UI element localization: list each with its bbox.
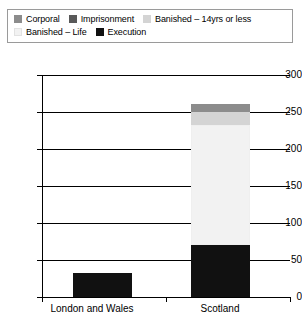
bar-scotland[interactable] [191, 104, 250, 297]
category-label-london-and-wales: London and Wales [32, 303, 152, 314]
legend-item-banished-14yrs: Banished – 14yrs or less [143, 14, 251, 24]
legend-label-banished-life: Banished – Life [26, 27, 87, 37]
gridline [42, 75, 290, 76]
legend-label-banished-14yrs: Banished – 14yrs or less [155, 14, 251, 24]
legend-label-imprisonment: Imprisonment [81, 14, 134, 24]
legend-item-execution: Execution [96, 27, 147, 37]
bar-segment-corporal [191, 104, 250, 112]
x-axis-tick-mark [42, 297, 43, 302]
legend-label-corporal: Corporal [26, 14, 60, 24]
plot-area [42, 75, 290, 297]
legend-item-corporal: Corporal [14, 14, 60, 24]
legend-swatch-corporal-icon [14, 15, 22, 23]
legend-swatch-banished-14yrs-icon [143, 15, 151, 23]
chart-legend: Corporal Imprisonment Banished – 14yrs o… [7, 9, 293, 43]
x-axis-tick-mark [166, 297, 167, 302]
gridline [42, 112, 290, 113]
bar-segment-banished-life [191, 125, 250, 245]
bar-segment-banished-14yrs-or-less [191, 112, 250, 125]
gridline [42, 260, 290, 261]
gridline [42, 223, 290, 224]
legend-item-banished-life: Banished – Life [14, 27, 87, 37]
legend-row: Banished – Life Execution [14, 27, 288, 37]
legend-row: Corporal Imprisonment Banished – 14yrs o… [14, 14, 288, 24]
gridline [42, 149, 290, 150]
legend-swatch-imprisonment-icon [69, 15, 77, 23]
legend-label-execution: Execution [108, 27, 147, 37]
category-label-scotland: Scotland [160, 303, 280, 314]
bar-segment-execution [73, 273, 132, 297]
legend-item-imprisonment: Imprisonment [69, 14, 134, 24]
x-axis-tick-mark [290, 297, 291, 302]
bar-london-and-wales[interactable] [73, 273, 132, 297]
gridline [42, 186, 290, 187]
bar-segment-execution [191, 245, 250, 297]
legend-swatch-execution-icon [96, 28, 104, 36]
legend-swatch-banished-life-icon [14, 28, 22, 36]
